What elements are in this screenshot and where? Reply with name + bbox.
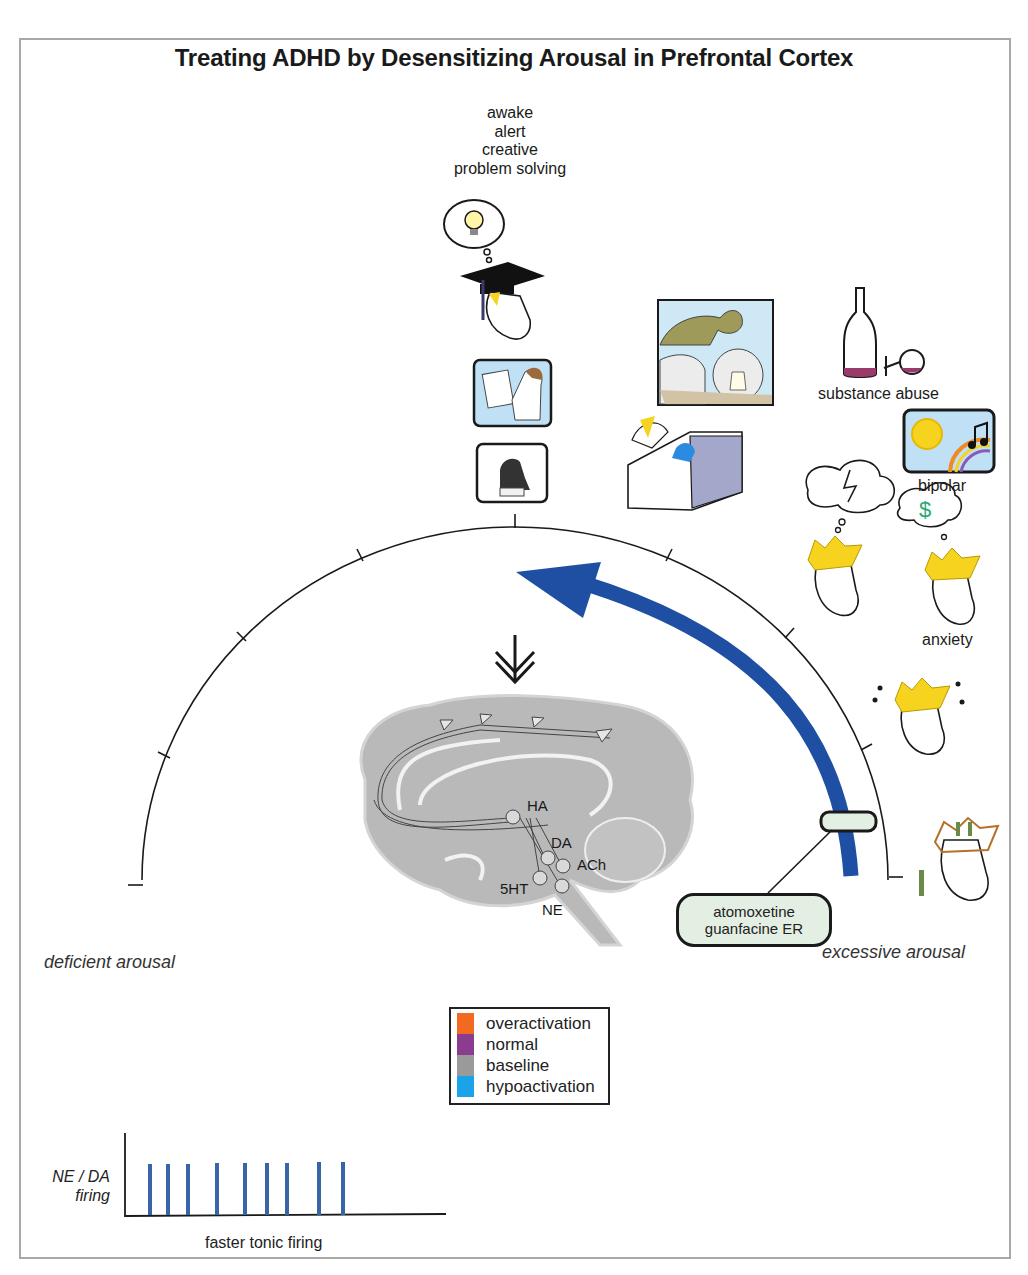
brain-sagittal-diagram [361, 696, 692, 945]
svg-text:$: $ [919, 497, 931, 522]
firing-chart-ylabel: NE / DA firing [40, 1167, 110, 1205]
legend-label: hypoactivation [486, 1077, 595, 1097]
swatch-baseline [457, 1055, 474, 1076]
legend-label: baseline [486, 1056, 549, 1076]
label-ach: ACh [577, 856, 606, 873]
legend-item-overactivation: overactivation [457, 1013, 602, 1034]
storm-thought-face-icon [806, 460, 894, 615]
label-deficient-arousal: deficient arousal [44, 952, 175, 973]
wine-bottle-glass-icon [844, 288, 924, 377]
label-ne: NE [542, 901, 563, 918]
ylabel-text: NE / DA firing [48, 1167, 110, 1205]
double-chevron-down-icon [496, 635, 534, 682]
money-thought-face-icon: $ [898, 483, 980, 624]
label-excessive-arousal: excessive arousal [822, 942, 965, 963]
lightbulb-thought-icon [444, 200, 504, 263]
label-anxiety: anxiety [922, 631, 973, 649]
legend-label: normal [486, 1035, 538, 1055]
legend-item-baseline: baseline [457, 1055, 602, 1076]
label-substance-abuse: substance abuse [818, 385, 939, 403]
label-da: DA [551, 834, 572, 851]
hallucination-face-icon [919, 818, 998, 900]
firing-chart-xlabel: faster tonic firing [205, 1234, 322, 1252]
graduate-face-icon [460, 262, 545, 339]
sweating-face-icon [873, 678, 965, 754]
drug-atomoxetine: atomoxetine [713, 903, 795, 920]
firing-chart [125, 1133, 446, 1217]
swatch-hypoactivation [457, 1076, 474, 1097]
drug-marker [821, 812, 876, 831]
legend-label: overactivation [486, 1014, 591, 1034]
sleeping-in-bed-icon [628, 416, 742, 510]
drug-guanfacine-er: guanfacine ER [705, 920, 803, 937]
legend-item-normal: normal [457, 1034, 602, 1055]
label-ha: HA [527, 797, 548, 814]
swatch-normal [457, 1034, 474, 1055]
thinker-statue-icon [477, 444, 547, 502]
legend-item-hypoactivation: hypoactivation [457, 1076, 602, 1097]
sun-rainbow-music-icon [904, 410, 994, 472]
label-bipolar: bipolar [918, 477, 966, 495]
scientist-icon [474, 360, 551, 426]
label-5ht: 5HT [500, 880, 528, 897]
legend: overactivation normal baseline hypoactiv… [449, 1007, 610, 1105]
dinosaur-nightmare-icon [658, 300, 773, 405]
drug-callout: atomoxetine guanfacine ER [676, 893, 832, 947]
swatch-overactivation [457, 1013, 474, 1034]
